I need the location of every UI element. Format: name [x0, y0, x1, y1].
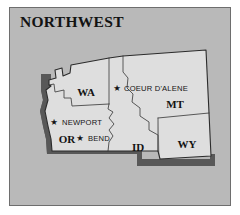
- state-label-id: ID: [132, 141, 144, 153]
- state-label-wa: WA: [77, 86, 95, 98]
- star-icon-coeur-dalene: ★: [113, 83, 121, 93]
- map-panel: WA MT OR ID WY ★ COEUR D'ALENE ★ NEWPORT…: [9, 7, 231, 206]
- map-figure: WA MT OR ID WY ★ COEUR D'ALENE ★ NEWPORT…: [0, 0, 240, 215]
- star-icon-newport: ★: [50, 117, 58, 127]
- northwest-map-svg: WA MT OR ID WY ★ COEUR D'ALENE ★ NEWPORT…: [10, 8, 232, 207]
- city-label-newport: NEWPORT: [62, 118, 102, 127]
- map-title: NORTHWEST: [20, 13, 124, 31]
- state-label-mt: MT: [166, 98, 184, 110]
- state-label-wy: WY: [178, 138, 197, 150]
- city-label-coeur-dalene: COEUR D'ALENE: [124, 84, 188, 93]
- city-label-bend: BEND: [88, 134, 110, 143]
- state-label-or: OR: [59, 133, 77, 145]
- star-icon-bend: ★: [76, 133, 84, 143]
